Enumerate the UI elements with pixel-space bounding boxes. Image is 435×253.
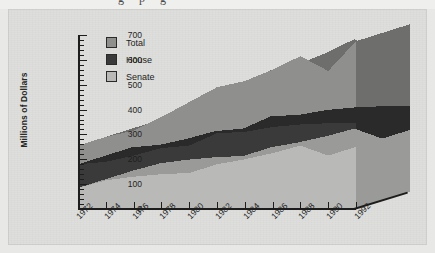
y-tick-major xyxy=(80,35,87,36)
y-tick-label: 100 xyxy=(108,180,142,188)
y-tick-minor xyxy=(80,50,84,51)
legend-item-senate[interactable]: Senate xyxy=(106,69,155,84)
y-tick-minor xyxy=(80,144,84,145)
y-tick-minor xyxy=(80,189,84,190)
chart-legend: Total House Senate xyxy=(106,35,155,86)
y-tick-major xyxy=(80,184,87,185)
y-tick-minor xyxy=(80,70,84,71)
y-tick-minor xyxy=(80,154,84,155)
y-tick-minor xyxy=(80,179,84,180)
legend-swatch-total xyxy=(106,37,117,48)
y-tick-minor xyxy=(80,100,84,101)
page-text-bleed: g p g xyxy=(0,0,435,9)
y-tick-minor xyxy=(80,55,84,56)
y-axis-title: Millions of Dollars xyxy=(19,55,29,165)
y-tick-label: 200 xyxy=(108,155,142,163)
legend-label-senate: Senate xyxy=(126,72,155,82)
y-tick-minor xyxy=(80,169,84,170)
y-tick-major xyxy=(80,85,87,86)
y-tick-minor xyxy=(80,120,84,121)
y-tick-minor xyxy=(80,129,84,130)
y-tick-minor xyxy=(80,174,84,175)
y-tick-minor xyxy=(80,80,84,81)
page-bleed-text: g p g xyxy=(118,0,172,6)
y-tick-label: 300 xyxy=(108,130,142,138)
legend-label-house: House xyxy=(126,55,152,65)
legend-label-total: Total xyxy=(126,38,145,48)
y-tick-minor xyxy=(80,199,84,200)
y-tick-minor xyxy=(80,139,84,140)
y-tick-minor xyxy=(80,194,84,195)
figure-root: g p g Millions of Dollars 01002003004005… xyxy=(0,0,435,253)
y-tick-minor xyxy=(80,90,84,91)
y-tick-minor xyxy=(80,65,84,66)
y-tick-label: 400 xyxy=(108,106,142,114)
chart-figure: Millions of Dollars 01002003004005006007… xyxy=(8,9,427,245)
y-axis-line xyxy=(78,35,80,209)
y-tick-major xyxy=(80,60,87,61)
legend-swatch-senate xyxy=(106,71,117,82)
y-tick-minor xyxy=(80,164,84,165)
y-tick-major xyxy=(80,134,87,135)
legend-item-total[interactable]: Total xyxy=(106,35,155,50)
y-tick-major xyxy=(80,159,87,160)
y-tick-minor xyxy=(80,45,84,46)
legend-swatch-house xyxy=(106,54,117,65)
y-tick-minor xyxy=(80,95,84,96)
y-tick-minor xyxy=(80,75,84,76)
y-tick-minor xyxy=(80,115,84,116)
y-tick-major xyxy=(80,110,87,111)
y-tick-minor xyxy=(80,149,84,150)
y-tick-minor xyxy=(80,124,84,125)
y-tick-minor xyxy=(80,105,84,106)
y-tick-minor xyxy=(80,40,84,41)
legend-item-house[interactable]: House xyxy=(106,52,155,67)
